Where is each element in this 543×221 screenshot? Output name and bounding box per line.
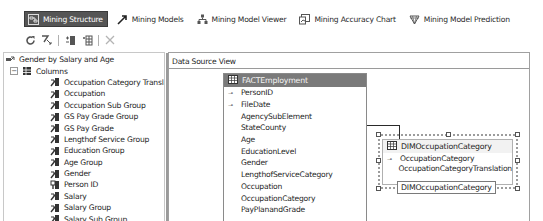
tree-column-item[interactable]: Gender: [4, 168, 164, 179]
dim-occupation-category-table[interactable]: DIMOccupationCategory ⊸OccupationCategor…: [382, 139, 513, 185]
tree-column-item[interactable]: Age Group: [4, 157, 164, 168]
table-column[interactable]: AgencySubElement: [224, 110, 366, 122]
tree-column-item[interactable]: Lengthof Service Group: [4, 134, 164, 145]
table-column[interactable]: LengthofServiceCategory: [224, 169, 366, 181]
column-label: GS Pay Grade: [64, 124, 114, 133]
tree-column-item[interactable]: Salary Group: [4, 202, 164, 213]
mining-model-viewer-icon: [197, 14, 208, 25]
table-column[interactable]: ⊸PersonID: [224, 87, 366, 99]
resize-handle[interactable]: [515, 132, 520, 137]
tree-column-item[interactable]: Occupation Sub Group: [4, 100, 164, 111]
table-column[interactable]: ⊸OccupationCategory: [383, 153, 512, 164]
dsv-header: Data Source View: [169, 53, 529, 69]
tree-column-item[interactable]: Education Group: [4, 145, 164, 156]
primary-key-icon: ⊸: [228, 89, 241, 96]
tree-column-item[interactable]: GS Pay Grade: [4, 122, 164, 133]
column-label: Gender: [64, 169, 91, 178]
column-name: OccupationCategoryTranslation: [399, 164, 512, 173]
tab-label: Mining Accuracy Chart: [314, 15, 395, 24]
tree-column-item[interactable]: Occupation: [4, 88, 164, 99]
resize-handle[interactable]: [376, 186, 381, 191]
table-column[interactable]: StateCounty: [224, 122, 366, 134]
table-column[interactable]: Gender: [224, 157, 366, 169]
tab-mining-structure[interactable]: Mining Structure: [24, 11, 108, 27]
resize-handle[interactable]: [446, 132, 451, 137]
fact-employment-table[interactable]: FACTEmployment ⊸PersonID ⊸FileDate Agenc…: [223, 73, 367, 221]
column-name: LengthofServiceCategory: [241, 170, 333, 179]
add-nested-table-icon[interactable]: [81, 34, 93, 46]
tab-mining-model-viewer[interactable]: Mining Model Viewer: [194, 11, 291, 27]
column-name: StateCounty: [241, 123, 286, 132]
primary-key-icon: ⊸: [387, 155, 400, 162]
column-icon: [50, 77, 60, 87]
column-icon: [50, 112, 60, 122]
column-label: Person ID: [64, 180, 98, 189]
table-icon: [228, 75, 238, 86]
column-name: PersonID: [241, 88, 273, 97]
resize-handle[interactable]: [515, 158, 520, 163]
tab-mining-models[interactable]: Mining Models: [114, 11, 188, 27]
tree-root-label: Gender by Salary and Age: [19, 55, 114, 64]
column-label: Age Group: [64, 158, 102, 167]
table-name: FACTEmployment: [242, 76, 308, 85]
mining-structure-icon: [5, 55, 15, 65]
structure-toolbar: [24, 33, 116, 47]
tab-mining-accuracy-chart[interactable]: Mining Accuracy Chart: [296, 11, 399, 27]
table-column[interactable]: OccupationCategory: [224, 192, 366, 204]
process-icon[interactable]: [41, 34, 53, 46]
column-label: Salary Sub Group: [64, 215, 127, 221]
table-column[interactable]: Occupation: [224, 181, 366, 193]
resize-handle[interactable]: [376, 158, 381, 163]
key-column-icon: [50, 180, 60, 190]
delete-icon[interactable]: [104, 34, 116, 46]
column-label: Occupation Sub Group: [64, 101, 146, 110]
table-column[interactable]: Age: [224, 134, 366, 146]
column-icon: [50, 169, 60, 179]
tree-column-item[interactable]: Salary Sub Group: [4, 213, 164, 221]
resize-handle[interactable]: [515, 186, 520, 191]
relationship-line[interactable]: [367, 125, 400, 126]
mining-model-prediction-icon: [409, 14, 420, 25]
column-label: GS Pay Grade Group: [64, 112, 138, 121]
toolbar-separator: [58, 35, 59, 46]
table-header[interactable]: DIMOccupationCategory: [383, 140, 512, 153]
column-label: Lengthof Service Group: [64, 135, 149, 144]
column-name: AgencySubElement: [241, 112, 312, 121]
column-icon: [50, 100, 60, 110]
tab-label: Mining Models: [132, 15, 184, 24]
data-source-view-pane[interactable]: Data Source View FACTEmployment ⊸PersonI…: [168, 52, 530, 221]
tree-column-item[interactable]: Occupation Category Translation: [4, 77, 164, 88]
column-icon: [50, 157, 60, 167]
tree-columns-node[interactable]: − Columns: [4, 65, 164, 76]
tab-mining-model-prediction[interactable]: Mining Model Prediction: [406, 11, 514, 27]
column-label: Salary Group: [64, 203, 111, 212]
refresh-icon[interactable]: [24, 34, 36, 46]
collapse-expander[interactable]: −: [10, 67, 18, 75]
table-column[interactable]: OccupationCategoryTranslation: [383, 164, 512, 175]
tree-column-item[interactable]: Person ID: [4, 179, 164, 190]
tree-column-item[interactable]: GS Pay Grade Group: [4, 111, 164, 122]
column-icon: [50, 134, 60, 144]
designer-tab-bar: Mining Structure Mining Models Mining Mo…: [24, 10, 514, 28]
table-header[interactable]: FACTEmployment: [224, 74, 366, 87]
tab-label: Mining Structure: [43, 15, 103, 24]
column-name: FileDate: [241, 100, 270, 109]
column-icon: [50, 89, 60, 99]
table-column[interactable]: EducationLevel: [224, 145, 366, 157]
table-column[interactable]: PayPlanandGrade: [224, 204, 366, 216]
add-column-icon[interactable]: [64, 34, 76, 46]
resize-handle[interactable]: [376, 132, 381, 137]
column-icon: [50, 203, 60, 213]
table-tooltip: DIMOccupationCategory: [397, 181, 496, 194]
tree-columns-label: Columns: [36, 67, 68, 76]
column-name: PayPlanandGrade: [241, 205, 305, 214]
columns-icon: [22, 66, 32, 76]
column-name: OccupationCategory: [400, 154, 474, 163]
tree-root[interactable]: Gender by Salary and Age: [4, 54, 164, 65]
column-label: Occupation: [64, 89, 105, 98]
table-column[interactable]: ⊸FileDate: [224, 99, 366, 111]
tree-column-item[interactable]: Salary: [4, 191, 164, 202]
column-name: Gender: [241, 158, 268, 167]
primary-key-icon: ⊸: [228, 101, 241, 108]
column-name: EducationLevel: [241, 147, 296, 156]
